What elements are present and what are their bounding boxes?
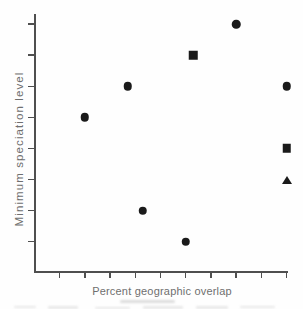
x-axis-tick xyxy=(59,273,60,278)
x-axis-tick xyxy=(84,273,85,278)
circle-marker xyxy=(282,82,291,91)
x-axis-tick xyxy=(160,273,161,278)
x-axis-tick xyxy=(210,273,211,278)
y-axis-tick xyxy=(28,23,35,24)
y-axis-label: Minimum speciation level xyxy=(13,72,25,227)
scan-artifact-dash xyxy=(14,306,36,308)
x-axis-tick xyxy=(109,273,110,278)
speciation-scatter-figure: Minimum speciation level Percent geograp… xyxy=(0,0,303,309)
triangle-marker xyxy=(282,176,292,184)
circle-marker xyxy=(139,206,148,215)
x-axis-tick xyxy=(185,273,186,278)
y-axis-tick xyxy=(28,86,35,87)
scan-artifact-dash xyxy=(196,306,228,309)
y-axis-tick xyxy=(28,54,35,55)
circle-marker xyxy=(181,237,190,246)
y-axis-tick xyxy=(28,117,35,118)
x-axis-tick xyxy=(235,273,236,278)
y-axis-tick xyxy=(28,179,35,180)
x-axis-tick xyxy=(286,273,287,278)
scan-artifact-dash xyxy=(48,306,78,309)
y-axis-tick xyxy=(28,148,35,149)
circle-marker xyxy=(81,113,90,122)
y-axis-tick xyxy=(28,241,35,242)
square-marker xyxy=(282,144,291,153)
y-axis-line xyxy=(34,14,36,272)
x-axis-tick xyxy=(261,273,262,278)
circle-marker xyxy=(232,20,241,29)
x-axis-tick xyxy=(135,273,136,278)
x-axis-label: Percent geographic overlap xyxy=(92,285,232,297)
y-axis-tick xyxy=(28,210,35,211)
scan-artifact-dash xyxy=(143,306,183,309)
circle-marker xyxy=(123,82,132,91)
scan-artifact-smudge xyxy=(120,300,175,303)
scan-artifact-dash xyxy=(240,306,275,308)
square-marker xyxy=(189,51,198,60)
